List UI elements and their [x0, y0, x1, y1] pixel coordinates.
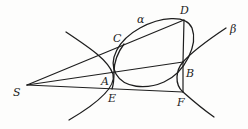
- label-point-E: E: [108, 93, 116, 104]
- hyperbola-beta-inner-arc: [112, 44, 124, 89]
- label-point-B: B: [186, 68, 194, 79]
- label-alpha: α: [137, 14, 144, 25]
- diagram-canvas: α β S A B C D E F: [0, 0, 248, 129]
- label-point-F: F: [177, 97, 185, 108]
- label-point-D: D: [180, 5, 189, 16]
- label-point-A: A: [101, 76, 109, 87]
- label-point-C: C: [113, 33, 121, 44]
- segment-DB: [183, 20, 184, 62]
- ellipse-alpha: [113, 19, 193, 87]
- label-beta: β: [230, 24, 236, 35]
- diagram-svg: [0, 0, 248, 129]
- label-point-S: S: [13, 87, 21, 98]
